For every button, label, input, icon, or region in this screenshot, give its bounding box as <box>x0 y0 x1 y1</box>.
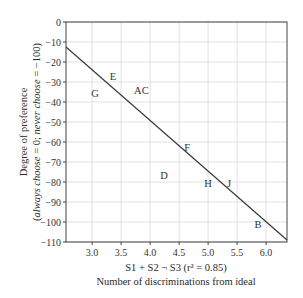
chart: 0−10−20−30−40−50−60−70−80−90−100−110 3.0… <box>0 0 303 298</box>
y-tick-label: −40 <box>45 97 61 108</box>
y-sublabel-part: = −100) <box>31 43 43 80</box>
y-tick-label: −90 <box>45 197 61 208</box>
y-tick-label: −60 <box>45 137 61 148</box>
x-tick-label: 5.5 <box>231 247 244 258</box>
x-tick-label: 5.0 <box>202 247 215 258</box>
y-tick-label: −20 <box>45 57 61 68</box>
y-tick-label: −50 <box>45 117 61 128</box>
x-axis-ticks: 3.03.54.04.55.05.56.0 <box>86 242 273 258</box>
x-tick-label: 3.5 <box>115 247 128 258</box>
point-label-e: E <box>110 71 116 82</box>
point-label-f: F <box>184 142 190 153</box>
x-tick-label: 6.0 <box>260 247 273 258</box>
x-axis-label-formula: S1 + S2 ¬ S3 (r² = 0.85) <box>125 262 227 274</box>
y-axis-label-group: Degree of preference (always choose = 0;… <box>18 43 43 221</box>
x-tick-label: 4.0 <box>144 247 157 258</box>
y-axis-sublabel: (always choose = 0; never choose = −100) <box>31 43 43 221</box>
plot-frame <box>66 22 287 242</box>
point-label-ac: AC <box>134 85 149 96</box>
y-tick-label: −70 <box>45 157 61 168</box>
y-tick-label: 0 <box>56 17 61 28</box>
y-tick-label: −10 <box>45 37 61 48</box>
data-point-labels: EGACFDHJB <box>91 71 261 230</box>
y-tick-label: −30 <box>45 77 61 88</box>
y-sublabel-part: always choose <box>31 156 42 217</box>
point-label-b: B <box>254 219 261 230</box>
y-axis-label: Degree of preference <box>18 87 29 176</box>
point-label-j: J <box>227 178 231 189</box>
regression-line <box>66 47 287 240</box>
y-axis-ticks: 0−10−20−30−40−50−60−70−80−90−100−110 <box>40 17 66 248</box>
y-sublabel-part: never choose <box>31 79 42 134</box>
y-tick-label: −110 <box>41 237 61 248</box>
x-tick-label: 3.0 <box>86 247 99 258</box>
y-sublabel-part: = 0; <box>31 135 42 157</box>
point-label-h: H <box>204 178 212 189</box>
gridlines <box>66 22 287 242</box>
point-label-d: D <box>160 170 168 181</box>
x-tick-label: 4.5 <box>173 247 186 258</box>
point-label-g: G <box>91 88 99 99</box>
y-tick-label: −80 <box>45 177 61 188</box>
y-tick-label: −100 <box>40 217 61 228</box>
x-axis-label: Number of discriminations from ideal <box>96 276 255 287</box>
